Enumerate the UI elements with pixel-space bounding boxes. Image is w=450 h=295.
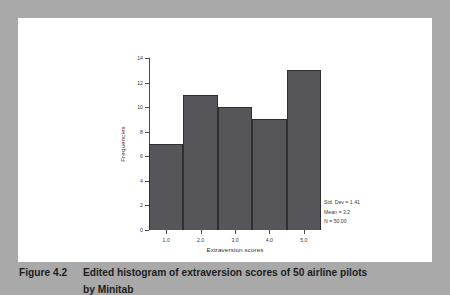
figure-caption-subline: by Minitab	[83, 284, 133, 295]
histogram-bar	[149, 144, 183, 230]
y-tick-mark	[145, 83, 149, 84]
histogram-bar	[252, 119, 286, 230]
x-tick-label: 1.0	[163, 237, 170, 243]
y-tick-label: 4	[140, 177, 143, 185]
y-tick-label: 14	[137, 54, 143, 62]
figure-number: Figure 4.2	[19, 267, 83, 278]
histogram-bar	[287, 70, 321, 230]
x-tick-label: 3.0	[231, 237, 238, 243]
y-tick-label: 0	[140, 226, 143, 234]
y-tick-mark	[145, 132, 149, 133]
y-tick-mark	[145, 58, 149, 59]
figure-caption: Figure 4.2Edited histogram of extraversi…	[19, 267, 367, 278]
y-axis-title: Frequencies	[119, 126, 126, 162]
caption-band: Figure 4.2Edited histogram of extraversi…	[0, 262, 450, 295]
x-tick-mark	[304, 230, 305, 234]
y-tick-mark	[145, 107, 149, 108]
histogram-bar	[218, 107, 252, 230]
y-tick-label: 10	[137, 103, 143, 111]
n-label: N = 50.00	[324, 217, 360, 227]
y-tick-label: 12	[137, 79, 143, 87]
y-tick-label: 8	[140, 128, 143, 136]
x-tick-mark	[166, 230, 167, 234]
chart-panel: 02468101214 1.02.03.04.05.0 Frequencies …	[18, 18, 432, 262]
mean-label: Mean = 3.2	[324, 208, 360, 218]
x-tick-mark	[201, 230, 202, 234]
x-tick-mark	[269, 230, 270, 234]
y-tick-label: 2	[140, 201, 143, 209]
y-tick-mark	[145, 230, 149, 231]
figure-caption-text: Edited histogram of extraversion scores …	[83, 267, 367, 278]
y-tick-label: 6	[140, 152, 143, 160]
x-axis-title: Extraversion scores	[149, 246, 321, 253]
y-tick-mark	[145, 156, 149, 157]
y-tick-mark	[145, 181, 149, 182]
histogram-bar	[183, 95, 217, 230]
figure-container: 02468101214 1.02.03.04.05.0 Frequencies …	[0, 0, 450, 295]
statistics-annotation: Std. Dev = 1.41 Mean = 3.2 N = 50.00	[324, 198, 360, 227]
x-tick-label: 5.0	[300, 237, 307, 243]
x-tick-label: 2.0	[197, 237, 204, 243]
x-tick-label: 4.0	[266, 237, 273, 243]
histogram-plot-area: 02468101214 1.02.03.04.05.0	[149, 58, 321, 230]
x-tick-mark	[235, 230, 236, 234]
std-dev-label: Std. Dev = 1.41	[324, 198, 360, 208]
y-tick-mark	[145, 205, 149, 206]
